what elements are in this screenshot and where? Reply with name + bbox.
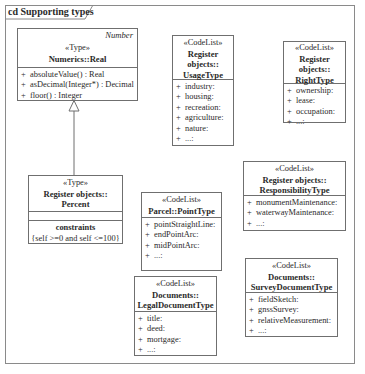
code-value: +ownership: [287, 86, 345, 96]
code-value: +recreation: [176, 103, 233, 113]
code-value: +agriculture: [176, 113, 233, 123]
code-value: +monumentMaintenance: [247, 198, 345, 208]
stereotype: «CodeList» [244, 164, 345, 175]
class-header: Number «Type» Numerics::Real [18, 29, 137, 68]
code-value: +gnssSurvey: [249, 305, 337, 315]
code-value: +...: [176, 134, 233, 144]
class-header: «CodeList» Register objects:: RightType [284, 42, 345, 84]
class-usage-type[interactable]: «CodeList» Register objects:: UsageType … [172, 35, 234, 146]
code-value: +industry: [176, 82, 233, 92]
class-header: «CodeList» Documents:: LegalDocumentType [135, 277, 216, 312]
stereotype: «CodeList» [246, 261, 337, 272]
class-point-type[interactable]: «CodeList» Parcel::PointType +pointStrai… [141, 192, 222, 271]
constraints-compartment: constraints {self >=0 and self <=100} [29, 221, 122, 244]
code-value: +occupation: [287, 107, 345, 117]
code-value: +housing: [176, 92, 233, 102]
class-header: «CodeList» Documents:: SurveyDocumentTyp… [246, 259, 337, 293]
class-name: Register objects:: Percent [29, 189, 122, 210]
class-header: «CodeList» Register objects:: Responsibi… [244, 162, 345, 196]
operations-compartment: +absoluteValue() : Real +asDecimal(Integ… [18, 68, 137, 102]
stereotype: «CodeList» [284, 43, 345, 54]
class-name: Register objects:: ResponsibilityType [244, 175, 345, 196]
code-value: +...: [138, 345, 216, 355]
stereotype: «Type» [18, 43, 137, 54]
stereotype: «CodeList» [142, 195, 221, 206]
code-value: +...: [145, 251, 221, 261]
constraint: {self >=0 and self <=100} [29, 234, 122, 245]
code-value: +...: [249, 326, 337, 336]
class-name: Numerics::Real [18, 54, 137, 65]
code-value: +fieldSketch: [249, 295, 337, 305]
attributes-compartment [29, 212, 122, 221]
stereotype: «CodeList» [135, 279, 216, 290]
class-name: Register objects:: UsageType [173, 49, 233, 81]
values-compartment: +monumentMaintenance: +waterwayMaintenan… [244, 196, 345, 230]
class-survey-document-type[interactable]: «CodeList» Documents:: SurveyDocumentTyp… [245, 258, 338, 337]
class-percent[interactable]: «Type» Register objects:: Percent constr… [28, 175, 123, 244]
code-value: +mortgage: [138, 335, 216, 345]
class-header: «CodeList» Register objects:: UsageType [173, 36, 233, 80]
code-value: +nature: [176, 124, 233, 134]
values-compartment: +ownership: +lease: +occupation: +...: [284, 84, 345, 129]
class-responsibility-type[interactable]: «CodeList» Register objects:: Responsibi… [243, 161, 346, 231]
code-value: +deed: [138, 324, 216, 334]
class-header: «Type» Register objects:: Percent [29, 176, 122, 212]
values-compartment: +industry: +housing: +recreation: +agric… [173, 80, 233, 145]
code-value: +...: [287, 117, 345, 127]
code-value: +midPointArc: [145, 241, 221, 251]
operation: +asDecimal(Integer*) : Decimal [21, 80, 137, 90]
code-value: +title: [138, 314, 216, 324]
class-name: Documents:: SurveyDocumentType [246, 272, 337, 293]
class-legal-document-type[interactable]: «CodeList» Documents:: LegalDocumentType… [134, 276, 217, 356]
class-right-type[interactable]: «CodeList» Register objects:: RightType … [283, 41, 346, 123]
code-value: +endPointArc: [145, 230, 221, 240]
code-value: +waterwayMaintenance: [247, 208, 345, 218]
class-header: «CodeList» Parcel::PointType [142, 193, 221, 218]
stereotype: «Type» [29, 178, 122, 189]
operation: +floor() : Integer [21, 91, 137, 101]
stereotype: «CodeList» [173, 38, 233, 49]
values-compartment: +pointStraightLine: +endPointArc: +midPo… [142, 218, 221, 263]
class-name: Parcel::PointType [142, 206, 221, 217]
code-value: +...: [247, 219, 345, 229]
constraints-title: constraints [29, 223, 122, 234]
class-numerics-real[interactable]: Number «Type» Numerics::Real +absoluteVa… [17, 28, 138, 101]
operation: +absoluteValue() : Real [21, 70, 137, 80]
values-compartment: +title: +deed: +mortgage: +...: [135, 312, 216, 357]
values-compartment: +fieldSketch: +gnssSurvey: +relativeMeas… [246, 293, 337, 338]
code-value: +lease: [287, 96, 345, 106]
abstract-tag: Number [105, 30, 133, 41]
class-name: Documents:: LegalDocumentType [135, 290, 216, 311]
class-name: Register objects:: RightType [284, 54, 345, 86]
code-value: +pointStraightLine: [145, 220, 221, 230]
code-value: +relativeMeasurement: [249, 316, 337, 326]
